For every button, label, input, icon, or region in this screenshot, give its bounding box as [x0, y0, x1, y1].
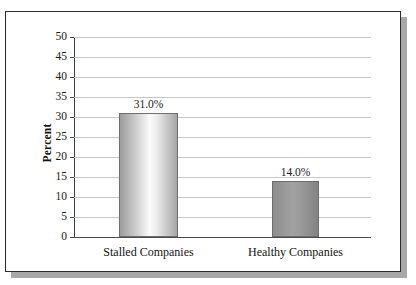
y-axis-title: Percent — [41, 124, 53, 163]
tick-mark-25 — [70, 137, 74, 138]
tick-mark-35 — [70, 97, 74, 98]
x-category-label-stalled-companies: Stalled Companies — [103, 246, 193, 258]
y-tick-label-30: 30 — [56, 111, 68, 123]
gridline-0-baseline: 0 — [74, 237, 371, 238]
tick-mark-0 — [70, 237, 74, 238]
y-tick-label-40: 40 — [56, 71, 68, 83]
y-tick-label-50: 50 — [56, 31, 68, 43]
y-tick-label-0: 0 — [61, 231, 67, 243]
plot-area: 50 45 40 35 30 25 20 15 — [74, 37, 371, 237]
bar-value-healthy-companies: 14.0% — [281, 167, 311, 179]
y-tick-label-10: 10 — [56, 191, 68, 203]
y-tick-label-20: 20 — [56, 151, 68, 163]
x-category-label-healthy-companies: Healthy Companies — [248, 246, 343, 258]
y-tick-label-5: 5 — [61, 211, 67, 223]
gridline-35: 35 — [74, 97, 371, 98]
tick-mark-45 — [70, 57, 74, 58]
tick-mark-30 — [70, 117, 74, 118]
tick-mark-5 — [70, 217, 74, 218]
chart-figure-frame: Percent 50 45 40 35 30 25 — [5, 11, 401, 272]
tick-mark-40 — [70, 77, 74, 78]
y-tick-label-35: 35 — [56, 91, 68, 103]
bar-value-stalled-companies: 31.0% — [134, 99, 164, 111]
tick-mark-15 — [70, 177, 74, 178]
bar-stalled-companies[interactable]: 31.0% Stalled Companies — [119, 113, 178, 237]
y-tick-label-25: 25 — [56, 131, 68, 143]
gridline-40: 40 — [74, 77, 371, 78]
tick-mark-10 — [70, 197, 74, 198]
y-tick-label-15: 15 — [56, 171, 68, 183]
y-tick-label-45: 45 — [56, 51, 68, 63]
tick-mark-20 — [70, 157, 74, 158]
gridline-50: 50 — [74, 37, 371, 38]
gridline-45: 45 — [74, 57, 371, 58]
tick-mark-50 — [70, 37, 74, 38]
bar-healthy-companies[interactable]: 14.0% Healthy Companies — [272, 181, 319, 237]
